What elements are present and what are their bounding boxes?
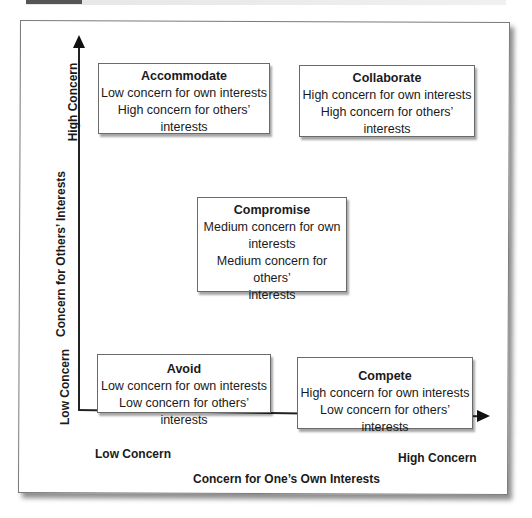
box-line: High concern for own interests [300, 87, 474, 104]
x-axis-low-label: Low Concern [95, 447, 171, 461]
y-axis-title: Concern for Others’ Interests [54, 169, 68, 339]
box-title: Accommodate [99, 68, 269, 85]
box-line: Low concern for own interests [98, 378, 270, 395]
box-line: High concern for own interests [298, 385, 472, 402]
header-tab-marker [26, 0, 82, 4]
box-line: Low concern for others’ interests [298, 402, 472, 436]
box-avoid: Avoid Low concern for own interests Low … [97, 354, 271, 413]
box-compete: Compete High concern for own interests L… [297, 357, 473, 429]
box-title: Compromise [198, 202, 346, 219]
box-collaborate: Collaborate High concern for own interes… [299, 65, 475, 137]
page-header-strip [26, 0, 506, 5]
box-accommodate: Accommodate Low concern for own interest… [98, 63, 270, 134]
box-line: Low concern for own interests [99, 85, 269, 102]
box-title: Compete [298, 368, 472, 385]
arrow-up-icon [73, 35, 85, 48]
box-line: interests [198, 287, 346, 304]
box-line: Low concern for others’ interests [98, 395, 270, 429]
box-title: Avoid [98, 361, 270, 378]
x-axis-title: Concern for One’s Own Interests [193, 472, 380, 486]
box-line: interests [300, 121, 474, 138]
box-line: Medium concern for others’ [198, 253, 346, 287]
box-line: interests [99, 119, 269, 136]
y-axis-low-label: Low Concern [58, 342, 72, 432]
box-line: Medium concern for own [198, 219, 346, 236]
arrow-right-icon [477, 410, 490, 422]
box-line: High concern for others’ [300, 104, 474, 121]
box-line: High concern for others’ [99, 102, 269, 119]
box-title: Collaborate [300, 70, 474, 87]
box-line: interests [198, 236, 346, 253]
y-axis-high-label: High Concern [66, 57, 80, 147]
x-axis-high-label: High Concern [398, 451, 477, 465]
box-compromise: Compromise Medium concern for own intere… [197, 197, 347, 292]
